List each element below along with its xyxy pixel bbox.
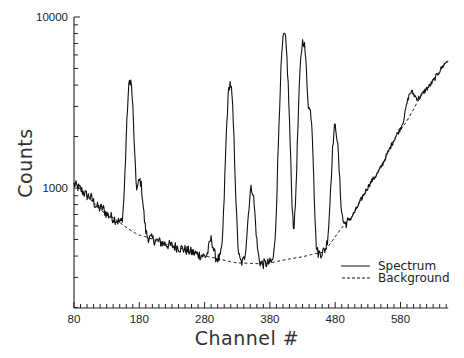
x-tick-label: 380	[260, 313, 279, 325]
background-curve	[74, 61, 448, 264]
x-tick-label: 480	[326, 313, 345, 325]
spectrum-chart: 10001000080180280380480580 Counts Channe…	[0, 0, 464, 358]
legend: Spectrum Background	[341, 259, 450, 285]
y-tick-label: 1000	[42, 182, 68, 194]
y-axis-title: Counts	[14, 128, 36, 197]
x-tick-label: 180	[130, 313, 149, 325]
x-axis-title: Channel #	[195, 327, 299, 349]
x-tick-label: 580	[391, 313, 410, 325]
spectrum-curve	[74, 33, 448, 269]
y-tick-label: 10000	[36, 11, 68, 23]
x-tick-label: 280	[195, 313, 214, 325]
legend-label-background: Background	[378, 271, 450, 285]
x-tick-label: 80	[68, 313, 81, 325]
